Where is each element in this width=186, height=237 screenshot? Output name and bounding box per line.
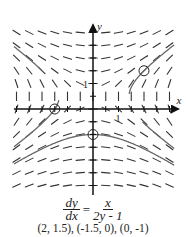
slope-segment xyxy=(51,68,58,73)
lhs-fraction: dy dx xyxy=(63,197,79,222)
slope-segment xyxy=(102,70,110,72)
axes xyxy=(14,25,178,195)
slope-segment xyxy=(51,133,59,137)
slope-segment xyxy=(26,43,33,47)
slope-segment xyxy=(76,185,84,186)
slope-segment xyxy=(38,31,46,34)
x-tick-label-1: 1 xyxy=(116,113,121,124)
slope-segment xyxy=(27,118,32,125)
slope-segment xyxy=(102,147,110,148)
slope-segment xyxy=(102,57,110,58)
slope-segment xyxy=(63,44,71,46)
slope-segment xyxy=(51,119,58,124)
slope-segment xyxy=(76,32,84,33)
y-axis-label: y xyxy=(96,20,102,32)
slope-segment xyxy=(167,132,173,138)
slope-segment xyxy=(166,171,174,175)
slope-segment xyxy=(127,31,135,33)
slope-segment xyxy=(76,57,84,58)
slope-segment xyxy=(51,172,59,174)
slope-segment xyxy=(114,44,122,46)
slope-field-plot: x y 1 1 xyxy=(0,0,186,195)
slope-segment xyxy=(102,45,110,46)
slope-segment xyxy=(25,184,33,187)
slope-segment xyxy=(166,184,174,187)
slope-segment xyxy=(76,70,84,72)
x-axis-label: x xyxy=(175,94,181,106)
slope-segment xyxy=(153,171,161,174)
slope-segment xyxy=(127,56,135,60)
slope-segment xyxy=(153,184,161,187)
slope-segment xyxy=(140,43,148,47)
slope-segment xyxy=(63,146,71,148)
slope-segment xyxy=(65,81,71,87)
slope-segment xyxy=(102,32,110,33)
slope-segment xyxy=(167,118,172,125)
slope-segment xyxy=(140,158,148,161)
slope-segment xyxy=(76,45,84,46)
slope-segment xyxy=(102,185,110,186)
slope-segment xyxy=(114,185,122,186)
slope-segment xyxy=(153,158,161,162)
slope-segment xyxy=(128,119,135,124)
slope-segment xyxy=(14,67,19,74)
slope-segment xyxy=(114,32,122,34)
slope-segment xyxy=(38,184,46,186)
slope-segment xyxy=(51,44,59,47)
slope-segment xyxy=(28,80,31,88)
rhs-fraction: x 2y - 1 xyxy=(93,197,123,222)
slope-segment xyxy=(51,159,59,161)
slope-segment xyxy=(51,31,59,33)
equals-sign: = xyxy=(83,202,90,218)
solution-curve xyxy=(14,47,42,71)
slope-segment xyxy=(27,67,32,74)
slope-segment xyxy=(141,132,148,137)
slope-segment xyxy=(168,80,171,88)
slope-segment xyxy=(52,80,57,87)
slope-segment xyxy=(114,172,122,173)
slope-segment xyxy=(115,57,123,60)
initial-points-caption: (2, 1.5), (-1.5, 0), (0, -1) xyxy=(0,222,186,234)
slope-segment xyxy=(127,172,135,174)
slope-segment xyxy=(153,31,161,35)
slope-segment xyxy=(142,80,146,88)
slope-segment xyxy=(140,171,148,174)
slope-segment xyxy=(153,145,160,149)
slope-segment xyxy=(127,133,135,137)
slope-segment xyxy=(127,159,135,161)
slope-segment xyxy=(64,69,72,73)
slope-segment xyxy=(155,80,158,88)
slope-segment xyxy=(25,171,33,174)
lhs-denominator: dx xyxy=(65,210,77,222)
slope-segment xyxy=(25,158,33,162)
slope-segment xyxy=(51,56,59,60)
slope-segment xyxy=(114,146,122,148)
slope-segment xyxy=(14,55,20,61)
slope-segment xyxy=(38,43,46,47)
differential-equation: dy dx = x 2y - 1 xyxy=(0,197,186,222)
slope-segment xyxy=(76,160,84,161)
slope-segment xyxy=(102,121,110,123)
initial-point-markers xyxy=(50,66,149,140)
slope-segment xyxy=(38,158,46,161)
slope-segment xyxy=(102,160,110,161)
slope-segment xyxy=(102,82,110,86)
slope-segment xyxy=(167,67,172,74)
slope-segment xyxy=(76,147,84,148)
slope-segment xyxy=(63,32,71,34)
slope-segment xyxy=(154,118,159,125)
slope-segment xyxy=(25,31,33,35)
slope-segment xyxy=(40,80,44,88)
slope-segment xyxy=(26,145,33,149)
slope-segment xyxy=(76,172,84,173)
slope-segment xyxy=(140,184,148,186)
slope-segment xyxy=(115,133,123,136)
slope-segment xyxy=(14,132,20,138)
slope-segment xyxy=(141,56,148,61)
slope-segment xyxy=(102,172,110,173)
slope-segment xyxy=(127,44,135,47)
slope-segment xyxy=(64,133,72,136)
slope-segment xyxy=(166,30,173,34)
slope-segment xyxy=(153,43,160,47)
slope-segment xyxy=(51,146,59,149)
